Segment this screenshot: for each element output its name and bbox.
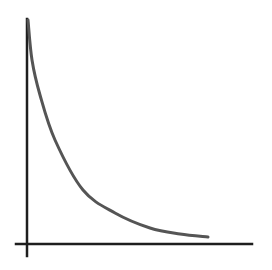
diagram-svg [0, 0, 272, 270]
decay-curve-diagram [0, 0, 272, 270]
decay-curve [28, 20, 208, 237]
